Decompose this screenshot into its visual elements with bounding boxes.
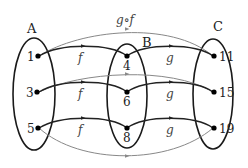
element-c-19: 19 [219,122,234,136]
dot-b-6 [124,89,129,94]
element-b-6: 6 [123,95,131,109]
element-b-8: 8 [123,131,131,145]
set-c-label: C [213,19,223,34]
element-c-15: 15 [219,86,234,100]
element-a-1: 1 [27,50,35,64]
element-c-11: 11 [219,50,234,64]
dot-c-15 [211,89,216,94]
dot-c-11 [211,53,216,58]
f-arrow-3-6 [39,82,127,92]
g-label-1: g [166,51,174,65]
g-label-3: g [166,123,174,137]
dot-b-8 [124,125,129,130]
g-label-2: g [166,87,174,101]
composite-label: g∘f [116,13,137,27]
element-b-4: 4 [123,59,131,73]
f-arrow-1-4 [39,46,127,56]
dot-a-5 [35,125,40,130]
dot-c-19 [211,125,216,130]
f-label-1: f [77,51,85,65]
dot-a-1 [35,53,40,58]
dot-b-4 [124,53,129,58]
f-label-2: f [77,87,85,101]
set-a-label: A [26,21,37,36]
composition-diagram: A B C g∘f f f f g g g 1 3 5 4 6 8 11 15 … [0,0,248,168]
dot-a-3 [34,89,39,94]
element-a-3: 3 [26,86,34,100]
f-label-3: f [77,123,85,137]
element-a-5: 5 [27,122,35,136]
